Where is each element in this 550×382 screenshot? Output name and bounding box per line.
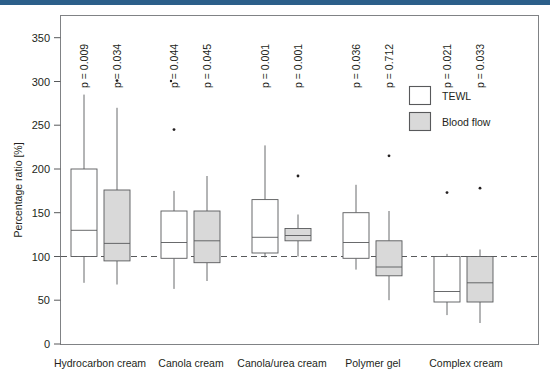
category-label-polymer-gel: Polymer gel — [345, 357, 400, 369]
ytick-label-250: 250 — [32, 119, 50, 131]
box-rect — [285, 229, 311, 241]
box-rect — [71, 169, 97, 257]
pvalue-canola-blood: p = 0.045 — [201, 44, 213, 88]
ytick-label-100: 100 — [32, 251, 50, 263]
y-axis: 350 300 250 200 150 100 50 0 — [32, 32, 61, 350]
legend-swatch-blood-flow — [410, 113, 431, 131]
pvalue-polymer-gel-tewl: p = 0.036 — [350, 44, 362, 88]
legend-swatch-tewl — [410, 87, 431, 105]
pvalue-hydrocarbon-blood: p = 0.034 — [111, 44, 123, 88]
ytick-label-200: 200 — [32, 163, 50, 175]
outlier-point — [388, 154, 391, 157]
category-label-canola-urea-cream: Canola/urea cream — [237, 357, 327, 369]
ytick-label-0: 0 — [44, 338, 50, 350]
outlier-point-small — [170, 80, 172, 82]
legend-label-blood-flow: Blood flow — [442, 116, 491, 128]
outlier-point — [446, 191, 449, 194]
box-rect — [343, 213, 369, 259]
box-rect — [376, 241, 402, 276]
y-axis-title: Percentage ratio [%] — [12, 142, 24, 237]
box-rect — [434, 257, 460, 303]
pvalue-canola-urea-tewl: p = 0.001 — [259, 44, 271, 88]
ytick-label-50: 50 — [38, 294, 50, 306]
box-rect — [104, 190, 130, 261]
pvalue-canola-tewl: p = 0.044 — [168, 44, 180, 88]
outlier-point — [173, 128, 176, 131]
pvalue-complex-cream-tewl: p = 0.021 — [441, 44, 453, 88]
category-label-hydrocarbon-cream: Hydrocarbon cream — [54, 357, 146, 369]
box-rect — [194, 211, 220, 263]
category-label-canola-cream: Canola cream — [158, 357, 224, 369]
boxplot-figure: 350 300 250 200 150 100 50 0 Percentage … — [0, 0, 550, 382]
ytick-label-150: 150 — [32, 207, 50, 219]
outlier-point — [297, 175, 300, 178]
x-axis-labels: Hydrocarbon cream Canola cream Canola/ur… — [54, 357, 503, 369]
category-label-complex-cream: Complex cream — [429, 357, 503, 369]
pvalue-complex-cream-blood: p = 0.033 — [474, 44, 486, 88]
ytick-label-350: 350 — [32, 32, 50, 44]
outlier-point — [479, 187, 482, 190]
legend-label-tewl: TEWL — [442, 90, 471, 102]
pvalue-polymer-gel-blood: p = 0.712 — [383, 44, 395, 88]
box-rect — [161, 211, 187, 258]
box-rect — [252, 200, 278, 253]
pvalue-canola-urea-blood: p = 0.001 — [292, 44, 304, 88]
ytick-label-300: 300 — [32, 76, 50, 88]
box-rect — [467, 257, 493, 303]
pvalue-hydrocarbon-tewl: p = 0.009 — [78, 44, 90, 88]
